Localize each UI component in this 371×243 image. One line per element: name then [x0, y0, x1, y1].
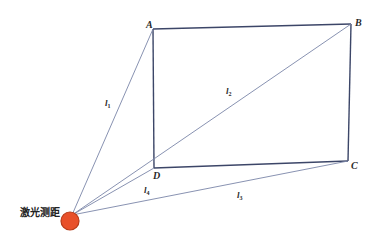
- laser-rangefinder-label: 激光测距: [20, 206, 60, 218]
- edge-bc: [348, 24, 351, 161]
- laser-ranging-diagram: A B C D l1 l2 l3 l4 激光测距: [0, 0, 371, 243]
- laser-rays: [72, 24, 351, 215]
- distance-label-l2: l2: [226, 86, 232, 97]
- rectangle-abcd: [153, 24, 351, 168]
- edge-da: [153, 29, 154, 168]
- ray-l3: [72, 161, 348, 215]
- vertex-label-d: D: [152, 170, 160, 181]
- vertex-label-a: A: [145, 19, 153, 30]
- vertex-label-b: B: [354, 17, 362, 28]
- distance-label-l3: l3: [237, 190, 243, 201]
- laser-rangefinder-marker-icon: [61, 212, 79, 230]
- edge-ab: [153, 24, 351, 29]
- ray-l4: [72, 168, 154, 215]
- distance-label-l1: l1: [105, 98, 111, 109]
- vertex-label-c: C: [351, 160, 358, 171]
- distance-label-l4: l4: [144, 185, 150, 196]
